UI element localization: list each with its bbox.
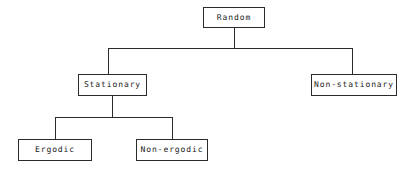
node-ergodic-label: Ergodic: [35, 146, 75, 154]
node-non-stationary-label: Non-stationary: [314, 81, 394, 89]
node-stationary[interactable]: Stationary: [78, 74, 147, 96]
node-random-label: Random: [217, 13, 251, 21]
node-ergodic[interactable]: Ergodic: [18, 139, 92, 161]
node-stationary-label: Stationary: [84, 81, 141, 89]
node-random[interactable]: Random: [203, 7, 265, 28]
node-non-ergodic-label: Non-ergodic: [141, 146, 204, 154]
node-non-ergodic[interactable]: Non-ergodic: [136, 139, 208, 161]
node-non-stationary[interactable]: Non-stationary: [311, 74, 397, 96]
diagram-canvas: Random Stationary Non-stationary Ergodic…: [0, 0, 412, 174]
